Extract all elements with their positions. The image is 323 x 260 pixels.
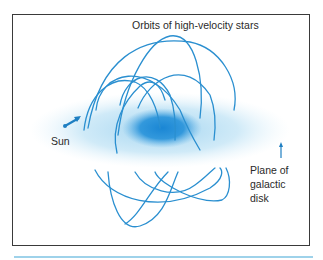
plane-label-line-1: Plane of xyxy=(250,163,289,177)
figure-title: Orbits of high-velocity stars xyxy=(132,18,259,32)
plane-label-line-2: galactic xyxy=(250,177,289,191)
plane-of-galactic-disk-label: Plane of galactic disk xyxy=(250,163,289,205)
galactic-bulge xyxy=(122,108,202,148)
plane-label-line-3: disk xyxy=(250,191,289,205)
bottom-rule xyxy=(14,256,313,258)
sun-label: Sun xyxy=(51,134,70,148)
galaxy-illustration xyxy=(0,0,323,260)
